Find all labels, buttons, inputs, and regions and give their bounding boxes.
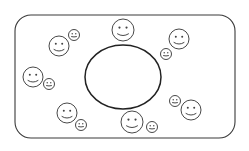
- small-face-icon: [170, 96, 181, 107]
- large-smiley-face-icon: [169, 29, 189, 49]
- left-eye-icon: [29, 74, 31, 76]
- small-face-icon: [147, 122, 158, 133]
- left-eye-icon: [127, 118, 129, 120]
- face-outline: [44, 79, 55, 90]
- left-eye-icon: [47, 82, 48, 83]
- diagram-canvas: [0, 0, 249, 151]
- left-eye-icon: [118, 26, 120, 28]
- face-outline: [49, 36, 69, 56]
- right-eye-icon: [50, 82, 51, 83]
- right-eye-icon: [193, 107, 195, 109]
- face-outline: [121, 111, 143, 133]
- right-eye-icon: [125, 26, 127, 28]
- left-eye-icon: [173, 99, 174, 100]
- small-face-icon: [69, 30, 80, 41]
- small-face-icon: [44, 79, 55, 90]
- left-eye-icon: [72, 33, 73, 34]
- left-eye-icon: [150, 125, 151, 126]
- left-eye-icon: [175, 36, 177, 38]
- central-oval: [85, 45, 161, 109]
- right-eye-icon: [69, 110, 71, 112]
- left-eye-icon: [63, 110, 65, 112]
- large-smiley-face-icon: [121, 111, 143, 133]
- right-eye-icon: [181, 36, 183, 38]
- right-eye-icon: [153, 125, 154, 126]
- small-face-icon: [161, 49, 172, 60]
- face-outline: [69, 30, 80, 41]
- face-outline: [147, 122, 158, 133]
- small-face-icon: [76, 120, 87, 131]
- right-eye-icon: [167, 52, 168, 53]
- large-smiley-face-icon: [49, 36, 69, 56]
- large-smiley-face-icon: [57, 103, 77, 123]
- right-eye-icon: [176, 99, 177, 100]
- face-outline: [76, 120, 87, 131]
- left-eye-icon: [164, 52, 165, 53]
- left-eye-icon: [55, 43, 57, 45]
- left-eye-icon: [187, 107, 189, 109]
- right-eye-icon: [61, 43, 63, 45]
- large-smiley-face-icon: [23, 67, 43, 87]
- face-outline: [170, 96, 181, 107]
- left-eye-icon: [79, 123, 80, 124]
- right-eye-icon: [35, 74, 37, 76]
- large-smiley-face-icon: [112, 19, 134, 41]
- face-outline: [169, 29, 189, 49]
- face-outline: [112, 19, 134, 41]
- right-eye-icon: [75, 33, 76, 34]
- face-outline: [23, 67, 43, 87]
- large-smiley-face-icon: [181, 100, 201, 120]
- face-outline: [57, 103, 77, 123]
- face-outline: [181, 100, 201, 120]
- right-eye-icon: [82, 123, 83, 124]
- face-outline: [161, 49, 172, 60]
- right-eye-icon: [134, 118, 136, 120]
